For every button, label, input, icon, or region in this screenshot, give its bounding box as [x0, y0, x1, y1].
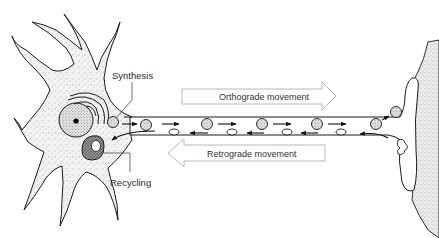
synthesis-label: Synthesis	[112, 70, 153, 81]
nucleolus	[73, 118, 78, 123]
orthograde-label: Orthograde movement	[219, 92, 310, 102]
synthesis-vesicle	[108, 117, 119, 128]
lysosome	[82, 136, 104, 160]
orthograde-arrow: Orthograde movement	[182, 82, 336, 110]
retrograde-label: Retrograde movement	[207, 149, 297, 159]
retrograde-arrow: Retrograde movement	[168, 139, 325, 167]
recycling-label: Recycling	[110, 177, 151, 188]
axonal-transport-diagram: Synthesis Recycling Orthograde movement …	[0, 0, 439, 238]
